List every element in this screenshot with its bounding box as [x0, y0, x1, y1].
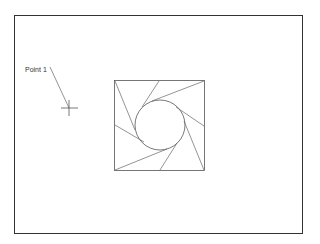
tangent-line	[115, 149, 167, 170]
outer-square	[115, 81, 205, 171]
point-label: Point 1	[25, 66, 47, 73]
leader-line	[50, 67, 69, 108]
tangent-line	[160, 143, 177, 170]
tangent-line	[142, 81, 159, 107]
tangent-line	[176, 107, 204, 126]
tangent-lines	[115, 81, 204, 170]
inner-circle	[135, 100, 185, 150]
crosshair-marker[interactable]	[61, 100, 78, 116]
tangent-line	[184, 121, 204, 170]
drawing-canvas[interactable]: Point 1	[0, 0, 320, 244]
tangent-line	[152, 81, 204, 101]
tangent-line	[115, 125, 144, 142]
tangent-line	[115, 81, 135, 130]
